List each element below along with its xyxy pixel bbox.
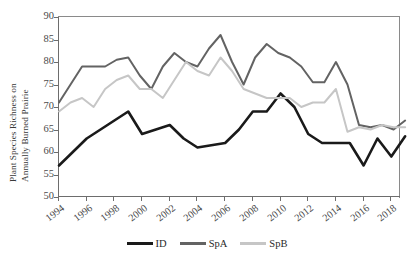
x-tick-mark (363, 197, 364, 201)
y-tick-label: 65 (30, 124, 54, 135)
legend-label-id: ID (156, 238, 167, 249)
series-line-spa (59, 35, 405, 130)
y-tick-mark (54, 107, 58, 108)
chart-figure: Plant Species Richness on Annually Burne… (0, 0, 414, 268)
series-line-spb (59, 58, 405, 132)
plot-area (58, 17, 400, 197)
y-tick-mark (54, 62, 58, 63)
x-tick-mark (196, 197, 197, 201)
x-tick-mark (280, 197, 281, 201)
legend-item-id[interactable]: ID (127, 238, 167, 249)
x-tick-mark (224, 197, 225, 201)
y-tick-label: 55 (30, 169, 54, 180)
y-tick-mark (54, 85, 58, 86)
y-tick-label: 90 (30, 11, 54, 22)
x-tick-mark (86, 197, 87, 201)
y-tick-mark (54, 130, 58, 131)
legend-label-spb: SpB (269, 238, 287, 249)
x-tick-mark (113, 197, 114, 201)
x-tick-mark (252, 197, 253, 201)
legend-item-spb[interactable]: SpB (240, 238, 287, 249)
y-tick-mark (54, 152, 58, 153)
chart-legend: IDSpASpB (0, 238, 414, 249)
x-tick-mark (58, 197, 59, 201)
x-tick-label: 2014 (316, 203, 343, 227)
x-tick-label: 2008 (233, 203, 260, 227)
legend-swatch-id (127, 242, 153, 245)
y-tick-mark (54, 197, 58, 198)
x-tick-mark (307, 197, 308, 201)
x-tick-label: 2006 (206, 203, 233, 227)
x-tick-label: 2012 (289, 203, 316, 227)
x-tick-label: 2000 (123, 203, 150, 227)
y-axis-title: Plant Species Richness on Annually Burne… (0, 0, 30, 200)
legend-swatch-spa (180, 242, 206, 245)
y-tick-label: 70 (30, 101, 54, 112)
y-axis-tick-labels: 908580757065605550 (28, 0, 54, 210)
x-tick-mark (141, 197, 142, 201)
legend-item-spa[interactable]: SpA (180, 238, 228, 249)
y-tick-mark (54, 17, 58, 18)
x-tick-label: 2002 (150, 203, 177, 227)
x-tick-label: 2010 (261, 203, 288, 227)
x-tick-label: 1998 (95, 203, 122, 227)
y-tick-label: 60 (30, 146, 54, 157)
x-tick-label: 1996 (67, 203, 94, 227)
y-tick-mark (54, 40, 58, 41)
y-tick-label: 75 (30, 79, 54, 90)
legend-swatch-spb (240, 242, 266, 245)
y-tick-label: 50 (30, 191, 54, 202)
x-tick-label: 2004 (178, 203, 205, 227)
x-tick-label: 2018 (372, 203, 399, 227)
y-tick-label: 80 (30, 56, 54, 67)
x-tick-mark (335, 197, 336, 201)
legend-label-spa: SpA (209, 238, 228, 249)
y-axis-title-line-1: Plant Species Richness on (8, 83, 18, 182)
x-tick-mark (390, 197, 391, 201)
y-tick-mark (54, 175, 58, 176)
y-tick-label: 85 (30, 34, 54, 45)
series-lines (59, 17, 401, 197)
x-tick-label: 2016 (344, 203, 371, 227)
x-tick-mark (169, 197, 170, 201)
